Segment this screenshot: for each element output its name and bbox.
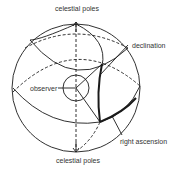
upper-latitude-back [25,34,128,48]
top-pole-arrow-icon [73,22,79,32]
right-ascension-label: right ascension [120,138,167,145]
bottom-pole-label: celestial poles [56,157,100,164]
observer-label: observer [30,85,57,92]
declination-leader [100,45,128,75]
upper-latitude-front [30,40,128,70]
top-pole-label: celestial poles [55,5,99,12]
declination-label: declination [132,42,165,49]
right-ascension-leader [112,116,122,135]
sphere-drawing [0,0,177,173]
declination-arc [98,64,102,122]
meridian-lower-dashed [78,122,100,150]
bottom-pole-arrow-icon [73,142,79,152]
celestial-sphere-diagram: celestial poles declination observer rig… [0,0,177,173]
